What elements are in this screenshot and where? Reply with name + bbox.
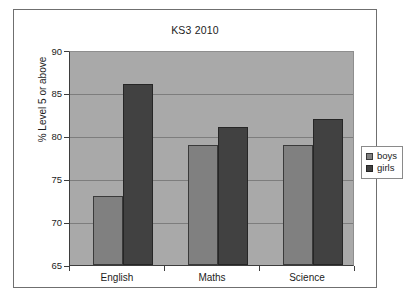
legend-item-boys: boys (366, 150, 399, 162)
legend-swatch-icon-boys (366, 153, 373, 160)
x-tick-mark-start (69, 266, 70, 271)
y-tick-label-70: 70 (32, 218, 62, 228)
bar-english-boys (93, 196, 123, 265)
bar-science-boys (283, 145, 313, 265)
chart-screenshot: KS3 2010 % Level 5 or above 90 85 80 75 … (0, 0, 408, 304)
x-tick-mark-1 (164, 266, 165, 271)
x-label-maths: Maths (164, 272, 260, 283)
y-tick-label-75: 75 (32, 175, 62, 185)
legend-label-girls: girls (377, 163, 394, 173)
x-tick-mark-end (354, 266, 355, 271)
legend-item-girls: girls (366, 162, 399, 174)
y-tick-label-80: 80 (32, 132, 62, 142)
gridline-85 (70, 94, 353, 95)
legend-label-boys: boys (377, 151, 397, 161)
bar-maths-boys (188, 145, 218, 265)
bar-english-girls (123, 84, 153, 265)
gridline-80 (70, 137, 353, 138)
bar-science-girls (313, 119, 343, 265)
chart-frame: KS3 2010 % Level 5 or above 90 85 80 75 … (13, 9, 377, 288)
x-label-english: English (69, 272, 165, 283)
legend-swatch-icon-girls (366, 165, 373, 172)
y-tick-label-90: 90 (32, 47, 62, 57)
x-label-science: Science (259, 272, 355, 283)
bar-maths-girls (218, 127, 248, 265)
y-tick-label-65: 65 (32, 261, 62, 271)
chart-legend: boys girls (361, 146, 403, 179)
chart-title: KS3 2010 (14, 24, 376, 36)
x-tick-mark-2 (259, 266, 260, 271)
plot-area (69, 51, 354, 266)
y-tick-label-85: 85 (32, 89, 62, 99)
